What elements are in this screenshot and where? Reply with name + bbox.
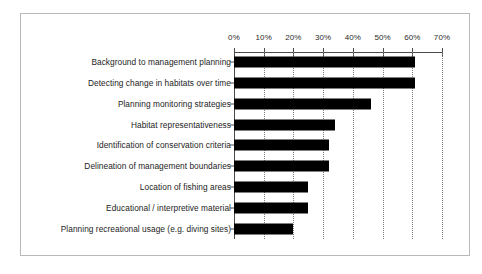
bar [234,78,415,89]
bar [234,140,329,151]
category-row: Identification of conservation criteria [21,135,471,156]
bar [234,98,371,109]
bar [234,119,335,130]
category-label: Location of fishing areas [140,182,231,192]
category-row: Planning recreational usage (e.g. diving… [21,218,471,239]
bar [234,161,329,172]
category-row: Location of fishing areas [21,177,471,198]
category-row: Delineation of management boundaries [21,156,471,177]
category-label: Educational / interpretive material [106,203,231,213]
category-label: Habitat representativeness [131,120,231,130]
category-label: Planning monitoring strategies [118,99,231,109]
category-row: Detecting change in habitats over time [21,73,471,94]
category-row: Habitat representativeness [21,114,471,135]
category-label: Delineation of management boundaries [84,161,231,171]
category-label: Planning recreational usage (e.g. diving… [61,224,231,234]
x-axis-tick-label: 50% [374,33,390,42]
category-row: Planning monitoring strategies [21,94,471,115]
x-axis-tick-label: 0% [228,33,240,42]
x-axis-tick-label: 70% [434,33,450,42]
category-row: Educational / interpretive material [21,197,471,218]
x-axis-tick-label: 10% [256,33,272,42]
figure-frame: 0%10%20%30%40%50%60%70% Background to ma… [20,13,470,256]
bar-chart: 0%10%20%30%40%50%60%70% Background to ma… [21,14,471,257]
category-label: Background to management planning [91,57,231,67]
bar [234,223,293,234]
category-label: Identification of conservation criteria [97,140,231,150]
category-label: Detecting change in habitats over time [88,78,231,88]
x-axis-tick-label: 20% [285,33,301,42]
bar [234,182,308,193]
x-axis-tick-label: 60% [404,33,420,42]
x-axis-tick-label: 40% [345,33,361,42]
category-row: Background to management planning [21,52,471,73]
bar [234,57,415,68]
bar [234,202,308,213]
x-axis-tick-label: 30% [315,33,331,42]
